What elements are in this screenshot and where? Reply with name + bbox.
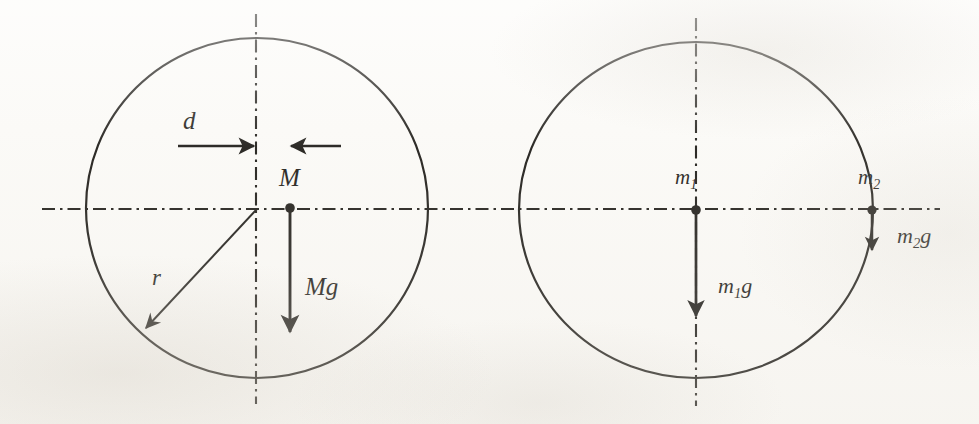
label-m2g: m2g: [897, 225, 931, 251]
label-m2g-base: m: [897, 223, 913, 248]
label-m1g-base: m: [718, 273, 734, 298]
right-panel: [519, 18, 877, 406]
label-m2g-gravity: g: [920, 223, 931, 248]
label-r: r: [152, 266, 161, 289]
label-m1-base: m: [675, 165, 690, 189]
label-M: M: [279, 165, 300, 190]
figure-canvas: d M Mg r m1 m2 m1g m2g: [0, 0, 979, 424]
label-m2-subscript: 2: [873, 177, 880, 192]
label-m1: m1: [675, 167, 697, 192]
label-m1-subscript: 1: [690, 177, 697, 192]
label-m1g: m1g: [718, 275, 752, 301]
label-Mg: Mg: [305, 274, 338, 299]
diagram-vector-layer: [0, 0, 979, 424]
radius-vector-r: [146, 209, 257, 328]
label-m1g-gravity: g: [741, 273, 752, 298]
label-d: d: [183, 108, 196, 133]
label-m2-base: m: [858, 165, 873, 189]
label-m2: m2: [858, 167, 880, 192]
